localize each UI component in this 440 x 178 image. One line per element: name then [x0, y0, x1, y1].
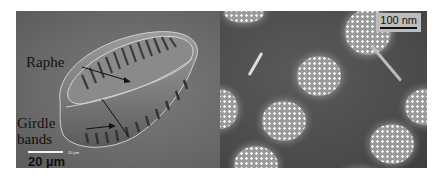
scale-bar-20um: [28, 151, 63, 153]
girdle-bands-label-line1: Girdle: [17, 116, 55, 130]
nanostructure-tem-panel: 100 nm: [220, 11, 427, 168]
scale-bar-line: [380, 27, 417, 29]
scale-bar-label-100nm: 100 nm: [380, 14, 417, 26]
girdle-bands-label-line2: bands: [17, 132, 52, 146]
scale-bar-label-20um: 20 µm: [28, 154, 65, 168]
scale-bar-small-label: 20 µm: [68, 150, 79, 155]
edge-streak: [371, 45, 402, 81]
figure: Raphe Girdle bands 20 µm 20 µm 100 nm: [16, 11, 427, 168]
pore-disc: [370, 124, 414, 164]
pore-disc: [262, 101, 306, 141]
pore-disc: [220, 89, 238, 129]
raphe-label: Raphe: [26, 55, 64, 69]
scale-bar-100nm: 100 nm: [376, 13, 421, 32]
diatom-sem-panel: Raphe Girdle bands 20 µm 20 µm: [16, 11, 220, 168]
pore-disc: [405, 89, 427, 125]
pore-disc: [234, 146, 278, 168]
pore-disc: [297, 56, 341, 96]
pore-disc: [224, 11, 264, 23]
edge-streak: [248, 52, 264, 76]
